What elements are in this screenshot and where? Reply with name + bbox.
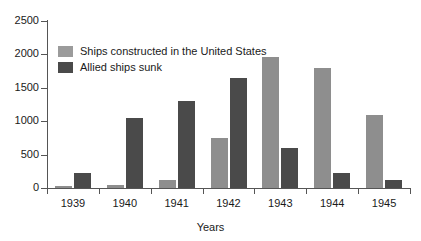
x-axis-tick xyxy=(203,189,204,194)
bar-1941-constructed xyxy=(159,180,176,188)
legend-item: Allied ships sunk xyxy=(58,60,267,74)
bar-1939-constructed xyxy=(55,186,72,188)
bar-chart: 05001000150020002500 1939194019411942194… xyxy=(0,0,421,241)
x-axis-tick-label: 1943 xyxy=(254,197,306,209)
bar-1944-sunk xyxy=(333,173,350,188)
bar-1941-sunk xyxy=(178,101,195,188)
x-axis-tick xyxy=(410,189,411,194)
y-axis-tick-label: 1500 xyxy=(0,82,39,93)
x-axis-tick xyxy=(358,189,359,194)
y-axis-tick-label: 0 xyxy=(0,182,39,193)
x-axis-tick-label: 1944 xyxy=(306,197,358,209)
bar-1940-constructed xyxy=(107,185,124,188)
y-axis-tick-label-text: 500 xyxy=(3,149,39,160)
x-axis-tick xyxy=(151,189,152,194)
bar-1945-constructed xyxy=(366,115,383,188)
y-axis-tick-label: 500 xyxy=(0,149,39,160)
legend-swatch-dark-icon xyxy=(58,62,73,73)
x-axis-tick xyxy=(306,189,307,194)
legend-item: Ships constructed in the United States xyxy=(58,44,267,58)
x-axis-tick-label: 1940 xyxy=(99,197,151,209)
x-axis-tick xyxy=(99,189,100,194)
legend-label: Allied ships sunk xyxy=(80,61,162,73)
bar-1943-sunk xyxy=(281,148,298,188)
y-axis-tick-label: 2500 xyxy=(0,15,39,26)
bar-1943-constructed xyxy=(262,57,279,188)
x-axis-line xyxy=(47,188,411,189)
x-axis-title: Years xyxy=(0,221,421,233)
legend-label: Ships constructed in the United States xyxy=(80,45,267,57)
x-axis-tick-label: 1945 xyxy=(358,197,410,209)
y-axis-tick-label: 1000 xyxy=(0,115,39,126)
x-axis-tick-label: 1942 xyxy=(203,197,255,209)
bar-1944-constructed xyxy=(314,68,331,188)
bar-1939-sunk xyxy=(74,173,91,188)
y-axis-tick-label-text: 1000 xyxy=(3,115,39,126)
x-axis-tick xyxy=(254,189,255,194)
y-axis-tick-label-text: 2500 xyxy=(3,15,39,26)
x-axis-tick xyxy=(47,189,48,194)
x-axis-tick-label: 1941 xyxy=(151,197,203,209)
bar-1942-constructed xyxy=(211,138,228,188)
y-axis-tick-label-text: 2000 xyxy=(3,48,39,59)
legend-swatch-light-icon xyxy=(58,46,73,57)
x-axis-tick-label: 1939 xyxy=(47,197,99,209)
chart-legend: Ships constructed in the United States A… xyxy=(58,44,267,76)
y-axis-tick-label-text: 1500 xyxy=(3,82,39,93)
bar-1942-sunk xyxy=(230,78,247,188)
bar-1945-sunk xyxy=(385,180,402,188)
bar-1940-sunk xyxy=(126,118,143,188)
y-axis-tick-label-text: 0 xyxy=(3,182,39,193)
y-axis-tick-label: 2000 xyxy=(0,48,39,59)
